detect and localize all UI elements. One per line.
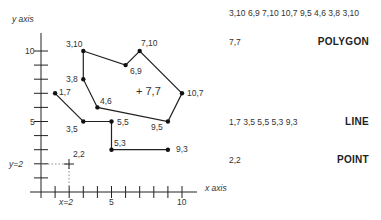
polygon-vertex [81, 49, 85, 53]
polygon-label-7-10: 7,10 [141, 38, 158, 48]
y-marker-label: y=2 [8, 159, 23, 169]
line-vertex [53, 91, 57, 95]
polygon-centroid-label: + 7,7 [136, 85, 161, 97]
polygon-coords-text: 3,10 6,9 7,10 10,7 9,5 4,6 3,8 3,10 [229, 8, 359, 18]
coordinate-diagram: y axis x axis 10 5 5 10 y=2 x=2 3,10 6,9… [0, 0, 381, 220]
polygon-edge-gap [157, 57, 163, 63]
x-axis-label: x axis [204, 183, 227, 193]
polygon-label-10-7: 10,7 [187, 88, 204, 98]
polygon-centroid-text: 7,7 [229, 37, 241, 47]
x-tick-label-10: 10 [177, 197, 187, 207]
polygon-label-9-5: 9,5 [151, 122, 163, 132]
line-coords-text: 1,7 3,5 5,5 5,3 9,3 [229, 117, 298, 127]
polygon-vertex [95, 105, 99, 109]
polygon-vertex [138, 49, 142, 53]
x-tick-label-5: 5 [109, 197, 114, 207]
polygon-vertex [180, 91, 184, 95]
polygon-label-6-9: 6,9 [130, 66, 142, 76]
x-marker-label: x=2 [58, 197, 73, 207]
line-vertex [81, 119, 85, 123]
polygon-type-label: POLYGON [318, 36, 369, 47]
line-vertex [166, 148, 170, 152]
line-label-1-7: 1,7 [59, 87, 71, 97]
polygon-label-3-8: 3,8 [66, 74, 78, 84]
line-vertex [109, 119, 113, 123]
line-label-5-3: 5,3 [114, 138, 126, 148]
point-coords-text: 2,2 [229, 155, 241, 165]
line-type-label: LINE [345, 116, 369, 127]
line-label-5-5: 5,5 [117, 117, 129, 127]
point-label: 2,2 [73, 149, 85, 159]
polygon-vertex [166, 119, 170, 123]
line-vertex [109, 148, 113, 152]
polygon-vertex [123, 63, 127, 67]
y-tick-label-10: 10 [25, 46, 35, 56]
polygon-vertex [81, 77, 85, 81]
y-tick-label-5: 5 [30, 117, 35, 127]
line-label-3-5: 3,5 [66, 124, 78, 134]
polygon-label-3-10: 3,10 [66, 39, 83, 49]
polygon-label-4-6: 4,6 [100, 96, 112, 106]
point-shape: 2,2 [64, 149, 85, 169]
polygon-outline [83, 51, 182, 122]
polygon-shape: 3,10 6,9 7,10 10,7 9,5 4,6 3,8 + 7,7 [66, 38, 204, 132]
line-label-9-3: 9,3 [176, 144, 188, 154]
y-axis-label: y axis [11, 14, 34, 24]
point-type-label: POINT [337, 154, 369, 165]
